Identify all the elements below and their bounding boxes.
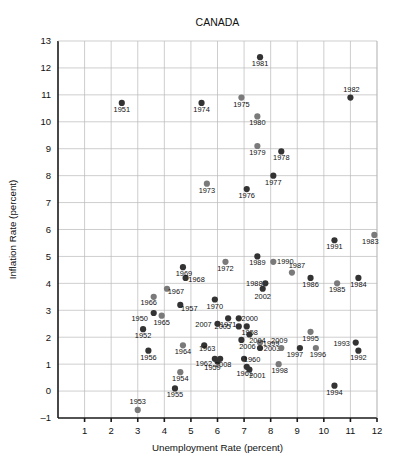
x-tick-label: 12 [372,425,383,436]
data-point-label: 1964 [175,347,191,356]
y-tick-label: 2 [46,332,51,343]
data-point-label: 1980 [249,118,265,127]
y-tick-label: 9 [46,143,51,154]
data-point[interactable] [151,310,157,316]
data-point[interactable] [270,259,276,265]
x-tick-label: 2 [109,425,114,436]
x-tick-label: 3 [135,425,140,436]
data-point[interactable] [257,345,263,351]
x-axis-title: Unemployment Rate (percent) [152,442,283,453]
y-tick-label: –1 [40,412,51,423]
x-tick-label: 5 [188,425,193,436]
x-tick-label: 10 [319,425,330,436]
y-tick-label: 0 [46,385,51,396]
x-tick-label: 4 [162,425,167,436]
y-tick-label: 13 [40,35,51,46]
data-point-label: 1951 [114,105,130,114]
data-point-label: 1950 [131,314,147,323]
data-point-label: 1995 [302,334,318,343]
data-point-label: 1952 [135,331,151,340]
data-point-label: 1989 [249,258,265,267]
y-axis-title: Inflation Rate (percent) [7,180,18,280]
data-point-label: 1967 [168,287,184,296]
data-point-label: 2009 [271,336,287,345]
data-point-label: 1957 [181,304,197,313]
data-point[interactable] [353,340,359,346]
data-point-label: 1969 [176,269,192,278]
data-point-label: 1972 [217,264,233,273]
y-tick-label: 3 [46,305,51,316]
y-tick-label: 5 [46,251,51,262]
data-point-label: 2008 [215,360,231,369]
data-point-label: 1960 [244,355,260,364]
data-point[interactable] [214,321,220,327]
data-point-label: 1954 [172,374,188,383]
data-point-label: 1977 [265,178,281,187]
data-point[interactable] [236,323,242,329]
data-point-label: 1970 [207,302,223,311]
data-point-label: 1966 [140,298,156,307]
data-point-label: 1998 [271,366,287,375]
y-tick-label: 7 [46,197,51,208]
data-point-label: 1953 [130,397,146,406]
data-point-label: 2003 [264,344,280,353]
y-tick-label: 10 [40,116,51,127]
data-point-label: 1956 [140,353,156,362]
data-point-label: 1979 [249,148,265,157]
data-point-label: 1991 [326,242,342,251]
data-point-label: 1988 [246,279,262,288]
data-point-label: 1993 [334,339,350,348]
y-tick-label: 1 [46,359,51,370]
data-point-label: 2002 [254,292,270,301]
data-point-label: 1974 [193,105,209,114]
data-point-label: 1955 [167,390,183,399]
data-point-label: 1963 [199,344,215,353]
data-point-label: 1994 [326,388,342,397]
y-tick-label: 11 [41,89,51,100]
data-point-label: 1965 [153,318,169,327]
data-point[interactable] [262,280,268,286]
data-point-label: 1983 [362,237,378,246]
x-tick-label: 6 [215,425,220,436]
x-tick-label: 1 [82,425,87,436]
data-point-label: 1975 [233,100,249,109]
data-point-label: 1976 [239,191,255,200]
data-point-label: 1990 [277,257,293,266]
data-point[interactable] [289,269,295,275]
data-point-label: 1992 [350,353,366,362]
data-point[interactable] [135,407,141,413]
data-point-label: 1997 [287,350,303,359]
y-tick-label: 12 [40,62,51,73]
x-tick-label: 7 [241,425,246,436]
data-point-label: 1981 [252,59,268,68]
data-point-label: 1973 [199,186,215,195]
x-tick-label: 9 [295,425,300,436]
data-point-label: 1978 [273,153,289,162]
data-point[interactable] [278,345,284,351]
data-point-label: 2007 [195,320,211,329]
data-point-label: 1986 [302,280,318,289]
data-point-label: 1984 [350,280,366,289]
data-point-label: 2006 [239,342,255,351]
data-point-label: 1982 [343,85,359,94]
scatter-chart: CANADA–101234567891011121312345678910111… [0,0,401,461]
y-tick-label: 6 [46,224,51,235]
data-point-label: 2001 [249,371,265,380]
chart-title: CANADA [196,16,240,28]
plot-canvas: CANADA–101234567891011121312345678910111… [0,0,401,461]
data-point[interactable] [347,94,353,100]
data-point-label: 1985 [329,285,345,294]
y-tick-label: 4 [46,278,51,289]
data-point-label: 2000 [242,314,258,323]
data-point-label: 1996 [310,350,326,359]
data-point-label: 1962 [196,359,212,368]
y-tick-label: 8 [46,170,51,181]
x-tick-label: 11 [345,425,355,436]
x-tick-label: 8 [268,425,273,436]
